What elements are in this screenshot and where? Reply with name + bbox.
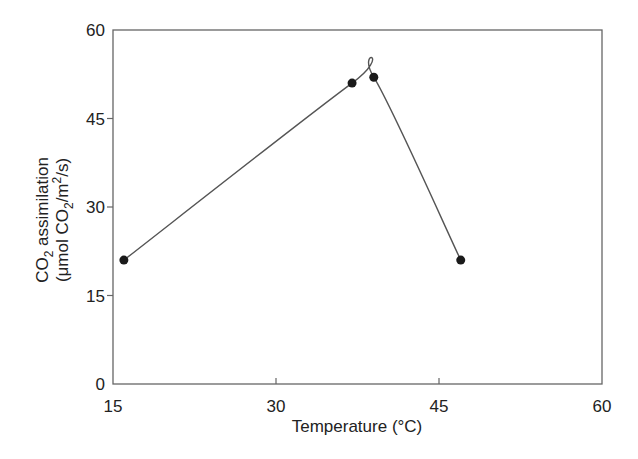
y-tick-label: 30 <box>86 198 105 217</box>
axes <box>113 30 602 384</box>
y-axis-title: CO2 assimilation (μmol CO2/m2/s) <box>33 157 76 283</box>
x-tick-label: 15 <box>104 397 123 416</box>
data-point <box>119 256 128 265</box>
markers <box>119 73 465 265</box>
chart: 15304560015304560 Temperature (°C) CO2 a… <box>0 0 638 459</box>
series-line <box>124 57 461 260</box>
y-axis-title-line2: (μmol CO2/m2/s) <box>50 158 76 282</box>
plot-frame <box>113 30 602 384</box>
y-tick-label: 0 <box>96 375 105 394</box>
data-point <box>348 79 357 88</box>
y-tick-label: 60 <box>86 21 105 40</box>
ticks <box>107 119 439 385</box>
y-tick-label: 15 <box>86 287 105 306</box>
x-tick-label: 30 <box>267 397 286 416</box>
x-axis-title: Temperature (°C) <box>292 417 423 436</box>
x-tick-label: 60 <box>593 397 612 416</box>
data-point <box>369 73 378 82</box>
y-tick-label: 45 <box>86 110 105 129</box>
data-point <box>456 256 465 265</box>
x-tick-label: 45 <box>430 397 449 416</box>
